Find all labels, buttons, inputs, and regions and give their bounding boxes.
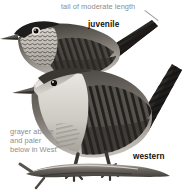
western-eye-highlight xyxy=(52,81,54,83)
label-juvenile: juvenile xyxy=(88,20,119,29)
annotation-west-line-2: and paler xyxy=(10,136,57,145)
annotation-west-plumage: grayer above and paler below in West xyxy=(10,127,57,155)
juvenile-eye-highlight xyxy=(34,29,36,31)
western-eye xyxy=(51,80,57,86)
juvenile-eye xyxy=(34,29,39,34)
illustration-plate: tail of moderate length grayer above and… xyxy=(0,0,194,193)
annotation-west-line-1: grayer above xyxy=(10,127,57,136)
perch-branch xyxy=(20,164,170,188)
annotation-west-line-3: below in West xyxy=(10,145,57,154)
label-western: western xyxy=(133,152,165,161)
annotation-tail-length: tail of moderate length xyxy=(61,2,135,11)
